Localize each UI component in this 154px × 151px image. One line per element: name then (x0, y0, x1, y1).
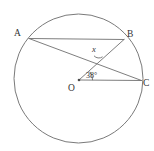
label-point-a: A (14, 28, 21, 38)
chord-ab-line (29, 39, 124, 40)
radius-oc-line (79, 80, 142, 81)
label-angle-38: 38° (86, 71, 97, 80)
label-point-b: B (127, 29, 133, 39)
center-point-dot (78, 79, 81, 82)
label-angle-x: x (91, 44, 96, 54)
label-point-c: C (143, 78, 149, 88)
label-center-o: O (68, 83, 75, 93)
unknown-angle-arc (94, 56, 103, 58)
diagram-root: A B C O 38° x (0, 0, 154, 151)
circle-outline (14, 14, 143, 143)
circle-geometry-figure: A B C O 38° x (0, 0, 154, 151)
